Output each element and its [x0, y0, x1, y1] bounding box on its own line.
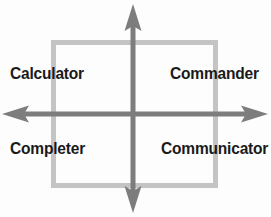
quadrant-diagram-graphics — [0, 0, 271, 217]
quadrant-label-bottom-left: Completer — [10, 140, 85, 157]
quadrant-label-top-right: Commander — [170, 65, 259, 82]
quadrant-label-bottom-right: Communicator — [161, 140, 268, 157]
diagram-canvas: Calculator Commander Completer Communica… — [0, 0, 271, 217]
quadrant-label-top-left: Calculator — [10, 65, 84, 82]
